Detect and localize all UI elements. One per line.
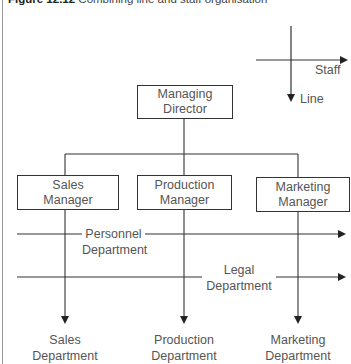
marketing-department-line-2: Department — [258, 348, 338, 364]
legal-department-label: Legal Department — [202, 262, 276, 294]
managing-director-box: Managing Director — [137, 85, 233, 119]
legend-staff-label: Staff — [315, 62, 340, 78]
sales-department-label: Sales Department — [25, 332, 105, 364]
production-manager-line-2: Manager — [155, 193, 215, 208]
managing-director-line-2: Director — [158, 102, 213, 117]
legend-line-label: Line — [300, 91, 324, 107]
sales-department-line-1: Sales — [25, 332, 105, 348]
legal-department-line-1: Legal — [202, 262, 276, 278]
managing-director-line-1: Managing — [158, 87, 213, 102]
marketing-manager-box: Marketing Manager — [256, 177, 350, 212]
personnel-department-line-2: Department — [82, 242, 145, 258]
marketing-manager-line-2: Manager — [276, 195, 331, 210]
production-department-label: Production Department — [144, 332, 224, 364]
production-department-line-2: Department — [144, 348, 224, 364]
production-manager-line-1: Production — [155, 178, 215, 193]
legal-department-line-2: Department — [202, 278, 276, 294]
sales-manager-box: Sales Manager — [17, 175, 119, 210]
legend-staff-text: Staff — [315, 63, 340, 77]
marketing-department-line-1: Marketing — [258, 332, 338, 348]
production-department-line-1: Production — [144, 332, 224, 348]
marketing-department-label: Marketing Department — [258, 332, 338, 364]
legend-line-text: Line — [300, 92, 324, 106]
sales-department-line-2: Department — [25, 348, 105, 364]
personnel-department-label: Personnel Department — [82, 226, 145, 258]
sales-manager-line-2: Manager — [43, 193, 92, 208]
sales-manager-line-1: Sales — [43, 178, 92, 193]
personnel-department-line-1: Personnel — [82, 226, 145, 242]
production-manager-box: Production Manager — [137, 175, 232, 210]
marketing-manager-line-1: Marketing — [276, 180, 331, 195]
